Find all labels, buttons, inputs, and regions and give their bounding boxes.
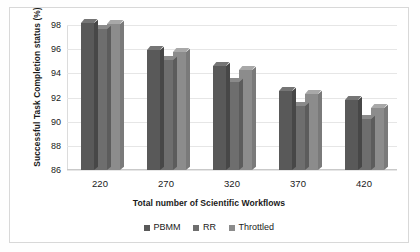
bar-group: 370 [265, 25, 331, 170]
legend-swatch-icon [193, 225, 199, 231]
bar-side-face [252, 66, 256, 170]
x-axis-tick-label: 320 [199, 178, 265, 189]
y-axis-tick-label: 86 [51, 166, 61, 175]
legend-swatch-icon [144, 225, 150, 231]
bar-pbmm-270 [147, 50, 160, 170]
x-axis-title: Total number of Scientific Workflows [10, 198, 408, 208]
y-axis-tick-label: 88 [51, 141, 61, 150]
bar-side-face [384, 105, 388, 170]
bar-pbmm-420 [345, 100, 358, 170]
bar-side-face [305, 103, 309, 170]
chart-legend: PBMMRRThrottled [10, 223, 408, 232]
bar-pbmm-320 [213, 66, 226, 170]
bar-group: 420 [331, 25, 397, 170]
legend-item-rr[interactable]: RR [193, 223, 216, 232]
x-axis-tick-label: 220 [67, 178, 133, 189]
bar-side-face [160, 47, 164, 170]
bar-top-face [213, 62, 229, 66]
legend-swatch-icon [229, 225, 235, 231]
y-axis-title: Successful Task Completion status (%) [32, 0, 42, 177]
y-axis-tick-label: 92 [51, 93, 61, 102]
legend-label: RR [203, 223, 216, 232]
y-axis-tick-label: 90 [51, 117, 61, 126]
bar-pbmm-370 [279, 91, 292, 170]
bar-face [345, 100, 358, 170]
chart-frame: Successful Task Completion status (%) 86… [9, 7, 409, 243]
bar-pbmm-220 [81, 23, 94, 170]
legend-label: PBMM [153, 223, 180, 232]
bar-side-face [358, 97, 362, 170]
bar-group: 320 [199, 25, 265, 170]
bar-side-face [226, 63, 230, 170]
bar-top-face [239, 66, 255, 70]
bar-face [147, 50, 160, 170]
bar-face [81, 23, 94, 170]
plot-inner: 86889092949698220270320370420 [67, 25, 397, 170]
gridline [67, 170, 397, 171]
bar-side-face [318, 91, 322, 170]
legend-item-pbmm[interactable]: PBMM [144, 223, 181, 232]
bar-group: 270 [133, 25, 199, 170]
legend-item-throttled[interactable]: Throttled [229, 223, 274, 232]
bar-side-face [239, 78, 243, 170]
bar-side-face [186, 48, 190, 170]
bar-side-face [120, 20, 124, 170]
y-axis-tick-label: 94 [51, 69, 61, 78]
x-axis-tick-label: 420 [331, 178, 397, 189]
bar-side-face [94, 19, 98, 170]
bar-face [279, 91, 292, 170]
bar-side-face [371, 116, 375, 170]
bar-side-face [107, 25, 111, 170]
bar-side-face [292, 88, 296, 170]
bar-face [213, 66, 226, 170]
x-axis-tick-label: 370 [265, 178, 331, 189]
bar-side-face [173, 57, 177, 170]
bar-top-face [107, 20, 123, 24]
bar-top-face [173, 48, 189, 52]
x-axis-tick-label: 270 [133, 178, 199, 189]
bar-top-face [345, 96, 361, 100]
y-axis-tick-label: 98 [51, 21, 61, 30]
y-axis-tick-label: 96 [51, 45, 61, 54]
bar-top-face [305, 90, 321, 94]
figure-container: Successful Task Completion status (%) 86… [0, 0, 420, 252]
bar-top-face [81, 19, 97, 23]
bar-group: 220 [67, 25, 133, 170]
legend-label: Throttled [238, 223, 274, 232]
plot-area: 86889092949698220270320370420 [67, 25, 397, 170]
